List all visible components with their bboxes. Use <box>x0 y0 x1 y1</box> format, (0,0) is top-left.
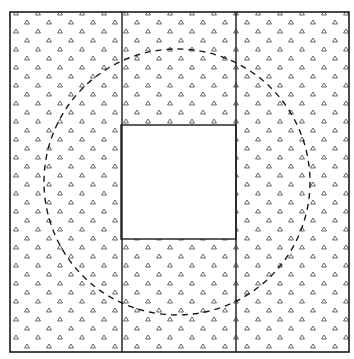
diagram-canvas <box>0 0 354 359</box>
center-hole <box>121 125 236 239</box>
